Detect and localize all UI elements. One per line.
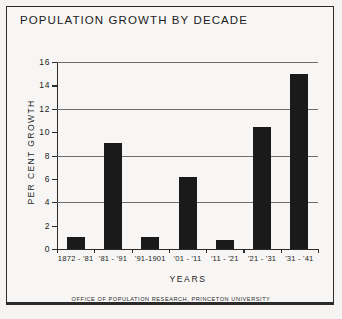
gridline-12 [57,109,318,110]
y-tick-4 [52,202,57,203]
gridline-16 [57,62,318,63]
y-tick-label-2: 2 [45,221,50,231]
bar [104,143,122,249]
x-tick [318,249,319,253]
bar [141,237,159,249]
x-tick [94,249,95,253]
y-tick-label-12: 12 [39,104,50,114]
x-tick [206,249,207,253]
y-tick-label-0: 0 [45,244,50,254]
gridline-8 [57,156,318,157]
x-tick [57,249,58,253]
y-tick-label-14: 14 [39,80,50,90]
x-tick [169,249,170,253]
y-tick-10 [52,132,57,133]
plot-area: 02468101214161872 - '81'81 - '91'91-1901… [57,62,318,249]
x-axis-title: YEARS [57,274,319,284]
y-tick-14 [52,85,57,86]
x-tick-label: '21 - '31 [248,254,276,263]
y-axis-title-text: PER CENT GROWTH [26,99,36,204]
x-tick [132,249,133,253]
x-axis-line [57,249,319,250]
y-tick-label-6: 6 [45,174,50,184]
y-tick-label-10: 10 [39,127,50,137]
x-tick-label: '01 - '11 [174,254,202,263]
credit-line: OFFICE OF POPULATION RESEARCH, PRINCETON… [0,296,342,302]
bar [290,74,308,249]
x-tick-label: '31 - '41 [285,254,313,263]
y-tick-12 [52,109,57,110]
x-tick-label: 1872 - '81 [58,254,94,263]
chart-title: POPULATION GROWTH BY DECADE [20,14,248,26]
y-tick-2 [52,226,57,227]
y-tick-label-4: 4 [45,197,50,207]
chart-figure: POPULATION GROWTH BY DECADE PER CENT GRO… [0,0,342,319]
bar [179,177,197,249]
y-tick-label-8: 8 [45,151,50,161]
y-tick-6 [52,179,57,180]
x-tick-label: '91-1901 [135,254,166,263]
x-tick-label: '11 - '21 [211,254,239,263]
y-tick-16 [52,62,57,63]
bar [253,127,271,249]
x-tick-label: '81 - '91 [99,254,127,263]
bar [67,237,85,249]
x-tick [281,249,282,253]
y-tick-8 [52,156,57,157]
x-tick [243,249,244,253]
y-tick-label-16: 16 [39,57,50,67]
footer-rule [6,303,334,305]
bar [216,240,234,249]
y-axis-title: PER CENT GROWTH [24,72,38,232]
